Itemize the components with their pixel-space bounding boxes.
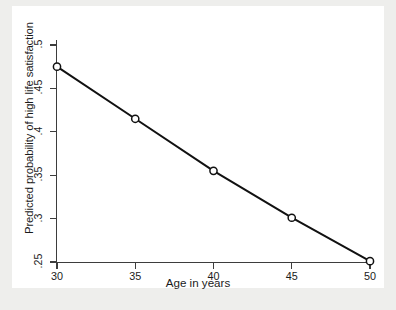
data-point-marker — [210, 167, 217, 174]
x-axis-title: Age in years — [0, 276, 396, 289]
data-point-marker — [366, 258, 373, 265]
data-point-marker — [132, 115, 139, 122]
data-markers — [53, 63, 373, 265]
data-point-marker — [288, 214, 295, 221]
chart-figure: Predicted probability of high life satis… — [0, 0, 396, 310]
data-line — [57, 67, 370, 261]
data-point-marker — [53, 63, 60, 70]
data-series-plot — [0, 0, 396, 310]
